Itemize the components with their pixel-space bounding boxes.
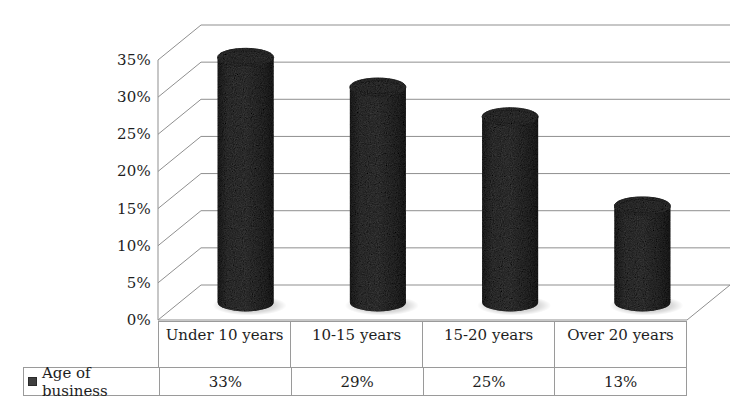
category-label: 15-20 years (422, 322, 554, 367)
legend-label: Age of business (42, 364, 159, 400)
cylinder-bar (218, 48, 274, 311)
cylinder-bar (614, 197, 670, 312)
value-cell: 29% (291, 368, 423, 395)
cylinder-bars (213, 48, 684, 315)
y-axis-tick-label: 0% (105, 311, 151, 329)
value-cell: 25% (423, 368, 555, 395)
legend-swatch-icon (28, 377, 37, 386)
y-axis-tick-label: 35% (105, 51, 151, 69)
legend-cell: Age of business (24, 368, 159, 395)
y-axis-tick-label: 10% (105, 237, 151, 255)
y-axis-tick-label: 20% (105, 162, 151, 180)
y-axis-tick-label: 15% (105, 200, 151, 218)
category-axis-row: Under 10 years 10-15 years 15-20 years O… (158, 321, 687, 367)
y-axis-tick-label: 25% (105, 125, 151, 143)
category-label: Under 10 years (159, 322, 290, 367)
category-label: 10-15 years (290, 322, 422, 367)
cylinder-bar (350, 78, 406, 311)
value-cell: 13% (554, 368, 686, 395)
chart-figure: 0%5%10%15%20%25%30%35% Under 10 years 10… (0, 0, 753, 420)
y-axis-tick-label: 30% (105, 88, 151, 106)
category-label: Over 20 years (554, 322, 686, 367)
data-table-row: Age of business 33% 29% 25% 13% (23, 367, 687, 396)
cylinder-bar (482, 108, 538, 312)
value-cell: 33% (159, 368, 291, 395)
y-axis-tick-label: 5% (105, 274, 151, 292)
